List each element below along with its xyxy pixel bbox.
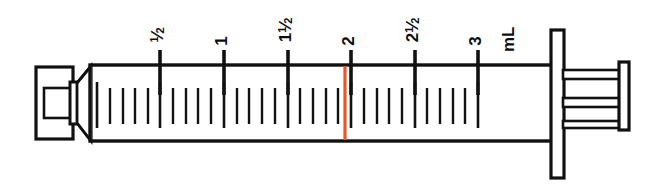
syringe-drawing (0, 0, 651, 188)
tick-label-two-half: 21⁄2 (404, 14, 426, 46)
fraction-denominator: 2 (409, 18, 421, 24)
tick-label-fraction: 1⁄2 (403, 18, 422, 33)
tick-label-one-half: 11⁄2 (277, 14, 299, 46)
tick-label-fraction: 1⁄2 (276, 18, 295, 33)
tick-label-half: 1⁄2 (149, 21, 171, 49)
tick-label-two: 2 (340, 28, 362, 54)
tick-label-whole: 3 (466, 36, 485, 45)
tick-label-fraction: 1⁄2 (148, 27, 167, 42)
tick-label-whole: 2 (403, 33, 422, 42)
fraction-denominator: 2 (282, 18, 294, 24)
luer-lock-tip (36, 67, 79, 139)
plunger-thumb-pad (619, 62, 629, 130)
tick-label-whole: 1 (212, 36, 231, 45)
tick-label-one: 1 (213, 28, 235, 54)
tick-label-three: 3 (467, 28, 489, 54)
plunger-rod (563, 70, 622, 128)
fraction-numerator: 1 (403, 27, 415, 33)
fraction-denominator: 2 (154, 27, 166, 33)
syringe-diagram: 1⁄2 1 11⁄2 2 21⁄2 3 mL (0, 0, 651, 188)
fraction-numerator: 1 (276, 27, 288, 33)
tick-label-whole: 1 (276, 33, 295, 42)
tick-label-whole: 2 (339, 36, 358, 45)
fraction-numerator: 1 (148, 36, 160, 42)
unit-label-ml: mL (500, 18, 522, 52)
